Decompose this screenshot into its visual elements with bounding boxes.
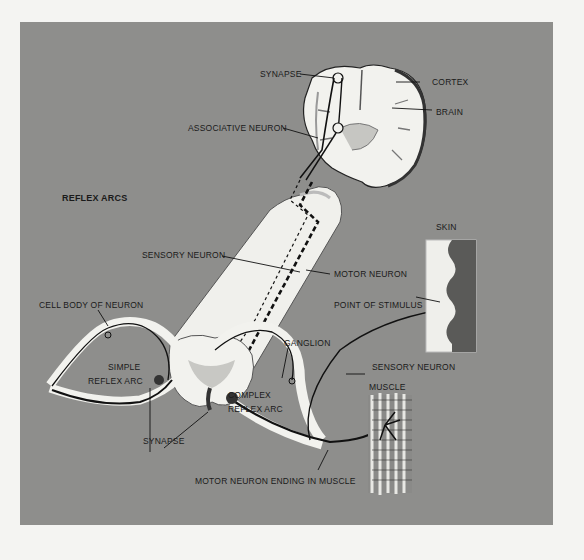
label-cell-body-of-neuron: CELL BODY OF NEURON — [39, 300, 143, 310]
label-muscle: MUSCLE — [369, 382, 406, 392]
label-motor-neuron-ending: MOTOR NEURON ENDING IN MUSCLE — [195, 476, 356, 486]
label-associative-neuron: ASSOCIATIVE NEURON — [188, 123, 287, 133]
label-simple-reflex-arc-2: REFLEX ARC — [88, 376, 143, 386]
brain — [300, 65, 426, 187]
skin-section — [426, 240, 476, 352]
label-complex-reflex-arc-2: REFLEX ARC — [228, 404, 283, 414]
label-cortex: CORTEX — [432, 77, 468, 87]
label-sensory-neuron-skin: SENSORY NEURON — [372, 362, 455, 372]
label-ganglion: GANGLION — [284, 338, 330, 348]
label-complex-reflex-arc-1: COMPLEX — [228, 390, 271, 400]
label-simple-reflex-arc-1: SIMPLE — [108, 362, 140, 372]
muscle-section — [368, 393, 412, 495]
label-sensory-neuron-cord: SENSORY NEURON — [142, 250, 225, 260]
label-point-of-stimulus: POINT OF STIMULUS — [334, 300, 423, 310]
label-brain: BRAIN — [436, 107, 463, 117]
label-synapse-top: SYNAPSE — [260, 69, 302, 79]
label-motor-neuron: MOTOR NEURON — [334, 269, 407, 279]
diagram-title: REFLEX ARCS — [62, 193, 127, 203]
label-synapse-bottom: SYNAPSE — [143, 436, 185, 446]
label-skin: SKIN — [436, 222, 457, 232]
